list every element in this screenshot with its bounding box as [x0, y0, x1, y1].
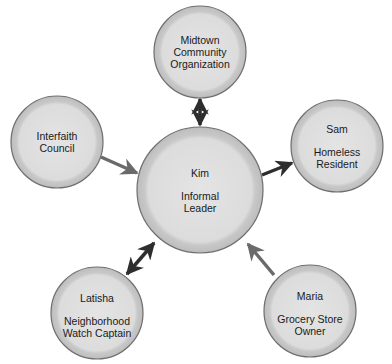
interfaith-line1: Interfaith: [37, 130, 78, 142]
sam-name: Sam: [314, 123, 361, 135]
latisha-role-line1: Neighborhood: [63, 315, 131, 327]
midtown-line3: Organization: [170, 58, 230, 70]
kim-role-line2: Leader: [181, 202, 219, 214]
maria-role-line2: Owner: [277, 325, 342, 337]
node-midtown-label: Midtown Community Organization: [170, 34, 230, 70]
arrow-maria-to-kim: [248, 244, 274, 275]
latisha-name: Latisha: [63, 292, 131, 304]
node-interfaith-label: Interfaith Council: [37, 130, 78, 154]
interfaith-line2: Council: [37, 142, 78, 154]
arrow-kim-to-sam: [262, 163, 292, 175]
sam-role-line1: Homeless: [314, 146, 361, 158]
arrow-latisha-kim: [127, 243, 154, 274]
maria-name: Maria: [277, 290, 342, 302]
midtown-line2: Community: [170, 46, 230, 58]
node-kim-label: Kim Informal Leader: [181, 167, 219, 214]
kim-role-line1: Informal: [181, 190, 219, 202]
node-sam-label: Sam Homeless Resident: [314, 123, 361, 170]
sam-role-line2: Resident: [314, 158, 361, 170]
arrow-interfaith-to-kim: [101, 157, 137, 173]
midtown-line1: Midtown: [170, 34, 230, 46]
kim-name: Kim: [181, 167, 219, 179]
node-latisha-label: Latisha Neighborhood Watch Captain: [63, 292, 131, 339]
node-maria-label: Maria Grocery Store Owner: [277, 290, 342, 337]
latisha-role-line2: Watch Captain: [63, 327, 131, 339]
maria-role-line1: Grocery Store: [277, 313, 342, 325]
